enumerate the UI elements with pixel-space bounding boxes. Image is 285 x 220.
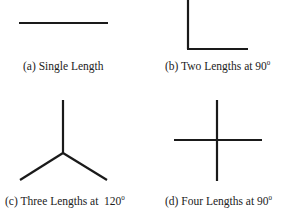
degree-superscript: 0 (267, 59, 271, 67)
caption-text: Three Lengths at 120 (20, 195, 121, 207)
caption-text: Single Length (39, 60, 104, 72)
panel-a-caption: (a) Single Length (23, 59, 103, 73)
panel-b-shape (187, 0, 248, 49)
panel-d-caption: (d) Four Lengths at 900 (165, 194, 272, 208)
panel-d-shape (174, 100, 262, 181)
degree-superscript: 0 (269, 194, 273, 202)
panel-label: (b) (165, 60, 178, 72)
panel-label: (c) (5, 195, 18, 207)
diagram-lines (0, 0, 285, 220)
caption-text: Two Lengths at 90 (181, 60, 267, 72)
caption-text: Four Lengths at 90 (181, 195, 268, 207)
panel-c-caption: (c) Three Lengths at 1200 (5, 194, 125, 208)
degree-superscript: 0 (121, 194, 125, 202)
segment (20, 153, 63, 180)
panel-c-shape (20, 100, 107, 180)
panel-b-caption: (b) Two Lengths at 900 (165, 59, 270, 73)
segment (63, 153, 107, 180)
diagram-figure: (a) Single Length (b) Two Lengths at 900… (0, 0, 285, 220)
panel-label: (a) (23, 60, 36, 72)
panel-label: (d) (165, 195, 178, 207)
